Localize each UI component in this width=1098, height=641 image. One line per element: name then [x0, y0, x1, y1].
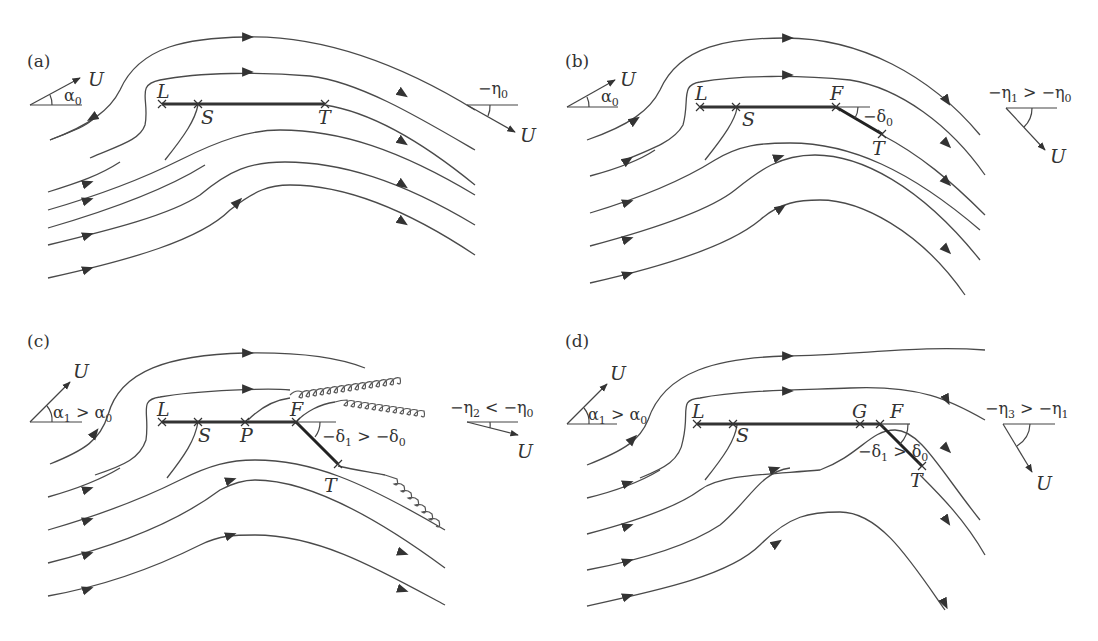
panel-label: (b): [565, 51, 589, 71]
deflection-label: −δ0: [863, 107, 893, 129]
svg-text:U: U: [520, 124, 537, 146]
streamlines: [48, 353, 445, 605]
plate: L S T: [156, 80, 332, 128]
svg-text:L: L: [691, 400, 705, 422]
streamlines: [587, 349, 985, 610]
svg-text:U: U: [620, 68, 637, 90]
svg-text:S: S: [742, 108, 755, 130]
incidence-angle-indicator: U α0: [30, 68, 105, 108]
svg-text:−η1 > −η0: −η1 > −η0: [988, 83, 1072, 105]
svg-text:−η0: −η0: [478, 79, 508, 101]
svg-text:F: F: [889, 400, 904, 422]
panel-d: (d) U α1 > α0: [565, 331, 1069, 610]
panel-label: (d): [565, 331, 589, 351]
svg-text:U: U: [1036, 472, 1053, 494]
svg-text:α1 > α0: α1 > α0: [53, 403, 112, 425]
plate: L S F T −δ0: [694, 82, 893, 159]
deflection-label: −δ1 > δ0: [858, 442, 928, 464]
svg-text:U: U: [1050, 145, 1067, 167]
svg-text:G: G: [852, 400, 867, 422]
svg-text:T: T: [872, 137, 886, 159]
panel-c: (c) U α1 > α0: [27, 331, 534, 605]
svg-text:S: S: [198, 424, 211, 446]
svg-text:α0: α0: [601, 87, 619, 109]
svg-text:α1 > α0: α1 > α0: [588, 405, 647, 427]
svg-text:L: L: [156, 80, 170, 102]
svg-text:L: L: [156, 398, 170, 420]
plate: L S P F T −δ1 > −δ0: [156, 398, 406, 496]
svg-text:U: U: [517, 440, 534, 462]
exit-angle-indicator: −η0 U: [467, 79, 537, 146]
svg-text:T: T: [318, 106, 332, 128]
panel-b: (b) U α0: [565, 38, 1072, 295]
svg-text:S: S: [201, 106, 214, 128]
plate: L S G F T −δ1 > δ0: [691, 400, 928, 491]
streamlines: [48, 37, 475, 278]
exit-angle-indicator: −η2 < −η0 U: [450, 398, 534, 462]
svg-text:T: T: [324, 474, 338, 496]
svg-text:P: P: [239, 424, 254, 446]
svg-text:U: U: [73, 360, 90, 382]
exit-angle-indicator: −η1 > −η0 U: [988, 83, 1072, 167]
streamlines: [587, 38, 985, 295]
incidence-angle-indicator: U α0: [567, 68, 637, 109]
panel-label: (c): [27, 331, 50, 351]
exit-angle-indicator: −η3 > −η1 U: [985, 399, 1069, 494]
incidence-angle-indicator: U α1 > α0: [567, 362, 647, 427]
svg-text:−η2 < −η0: −η2 < −η0: [450, 398, 534, 420]
flow-diagram: (a) U α0: [0, 0, 1098, 641]
svg-text:U: U: [88, 68, 105, 90]
vortex-wakes: [290, 378, 440, 527]
svg-text:F: F: [829, 82, 844, 104]
svg-text:U: U: [610, 362, 627, 384]
incidence-angle-indicator: U α1 > α0: [30, 360, 112, 425]
svg-text:F: F: [289, 398, 304, 420]
panel-label: (a): [27, 51, 50, 71]
svg-text:S: S: [736, 424, 749, 446]
svg-text:L: L: [694, 82, 708, 104]
svg-text:α0: α0: [64, 86, 82, 108]
svg-text:T: T: [910, 469, 924, 491]
panel-a: (a) U α0: [27, 37, 537, 278]
deflection-label: −δ1 > −δ0: [322, 427, 406, 449]
svg-text:−η3 > −η1: −η3 > −η1: [985, 399, 1069, 421]
